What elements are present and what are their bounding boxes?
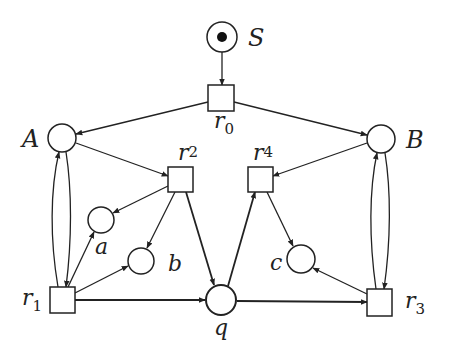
label-b: b bbox=[168, 251, 182, 276]
arc-r1-A bbox=[52, 152, 59, 287]
place-A bbox=[48, 124, 76, 152]
arc-r1-b bbox=[75, 266, 128, 293]
label-r3: r3 bbox=[405, 288, 425, 318]
arc-r2-q bbox=[186, 192, 214, 285]
label-r0: r0 bbox=[214, 108, 234, 138]
place-q bbox=[206, 285, 236, 315]
label-A: A bbox=[20, 125, 39, 153]
label-c: c bbox=[270, 250, 282, 275]
place-b bbox=[128, 248, 154, 274]
arc-r3-c bbox=[313, 268, 367, 294]
arc-q-r4 bbox=[228, 192, 255, 286]
transition-r4 bbox=[248, 167, 273, 192]
label-S: S bbox=[248, 24, 264, 52]
arc-r0-A bbox=[76, 102, 208, 134]
place-a bbox=[88, 207, 114, 233]
arc-r1-a bbox=[68, 232, 94, 287]
arc-r2-b bbox=[147, 192, 175, 248]
label-B: B bbox=[405, 126, 424, 154]
arc-q-r3 bbox=[237, 301, 367, 302]
arc-B-r4 bbox=[273, 143, 367, 176]
label-r2: r2 bbox=[178, 140, 198, 165]
token bbox=[217, 32, 227, 42]
arc-A-r2 bbox=[76, 143, 168, 176]
arc-r3-B bbox=[371, 153, 377, 289]
transition-r3 bbox=[367, 289, 392, 316]
place-c bbox=[287, 245, 315, 273]
transition-r1 bbox=[50, 287, 75, 313]
arc-r2-a bbox=[113, 186, 168, 213]
transition-r2 bbox=[168, 167, 193, 192]
arc-B-r3 bbox=[384, 153, 389, 289]
place-B bbox=[367, 125, 395, 153]
petri-net-diagram: S A B a b c q r0 r2 r4 r1 r3 bbox=[0, 0, 456, 355]
label-r1: r1 bbox=[22, 285, 42, 315]
arc-r4-c bbox=[267, 192, 293, 246]
arc-r0-B bbox=[234, 102, 367, 135]
label-a: a bbox=[95, 234, 108, 259]
label-r4: r4 bbox=[253, 140, 273, 165]
arc-A-r1 bbox=[66, 152, 71, 287]
label-q: q bbox=[214, 315, 228, 340]
